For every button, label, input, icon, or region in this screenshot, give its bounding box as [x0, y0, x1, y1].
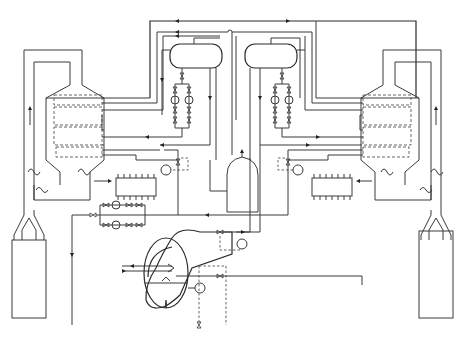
diesel-engine-left [12, 210, 46, 318]
diesel-engine-right [419, 210, 453, 318]
blowdown-tank [210, 120, 258, 212]
feed-pumps [70, 160, 288, 325]
superheated-steam-header [150, 19, 416, 98]
steam-drum-right [245, 38, 362, 160]
heat-recovery-steam-diagram [0, 0, 465, 349]
turbine-condenser [122, 145, 362, 328]
hrsg-right [278, 21, 443, 210]
